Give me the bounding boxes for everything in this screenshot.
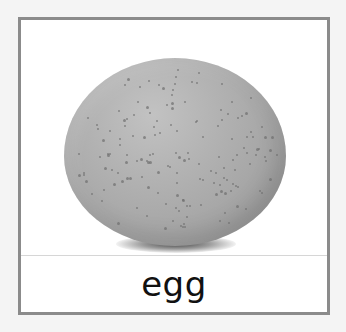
egg-speckle (169, 166, 171, 168)
egg-speckle (236, 154, 238, 156)
egg-speckle (132, 135, 134, 137)
egg-speckle (147, 186, 150, 189)
egg-speckle (269, 178, 272, 181)
egg-speckle (103, 189, 105, 191)
egg-speckle (129, 177, 132, 180)
egg-speckle (232, 159, 234, 161)
egg-speckle (261, 126, 263, 128)
egg-speckle (189, 205, 191, 207)
egg-speckle (221, 83, 223, 85)
egg-speckle (153, 126, 155, 128)
egg-speckle (178, 210, 180, 212)
egg-speckle (171, 94, 173, 96)
egg-speckle (149, 154, 151, 156)
egg-speckle (87, 117, 89, 119)
egg-speckle (96, 124, 98, 126)
egg-speckle (243, 147, 245, 149)
egg-speckle (217, 125, 219, 127)
egg-speckle (246, 152, 248, 154)
egg-speckle (218, 156, 220, 158)
egg-speckle (149, 112, 151, 114)
egg-speckle (167, 165, 169, 167)
word-label: egg (21, 256, 327, 312)
egg-speckle (246, 136, 248, 138)
egg-speckle (164, 227, 167, 230)
egg-speckle (220, 109, 222, 111)
egg-speckle (269, 149, 272, 152)
egg-speckle (210, 170, 212, 172)
egg-speckle (226, 179, 228, 181)
egg-speckle (264, 156, 266, 158)
egg-speckle (133, 114, 135, 116)
egg-speckle (159, 132, 161, 134)
egg-speckle (191, 81, 193, 83)
egg-speckle (175, 152, 177, 154)
egg-speckle (109, 153, 111, 155)
egg-speckle (245, 208, 247, 210)
egg-speckle (143, 136, 146, 139)
egg-speckle (234, 169, 236, 171)
egg-speckle (125, 161, 128, 164)
egg-speckle (175, 207, 177, 209)
egg-speckle (165, 203, 167, 205)
egg-speckle (258, 148, 260, 150)
egg-speckle (219, 220, 221, 222)
egg-speckle (78, 174, 81, 177)
egg-speckle (102, 139, 105, 142)
egg-speckle (198, 72, 200, 74)
egg-speckle (264, 136, 267, 139)
egg-speckle (117, 222, 120, 225)
egg-speckle (99, 156, 101, 158)
egg-speckle (237, 186, 239, 188)
egg-speckle (202, 136, 204, 138)
egg-speckle (176, 130, 178, 132)
egg-speckle (119, 138, 121, 140)
egg-speckle (183, 223, 185, 225)
egg-speckle (97, 128, 99, 130)
egg-speckle (261, 192, 263, 194)
egg-speckle (186, 205, 188, 207)
egg-speckle (213, 182, 215, 184)
egg-speckle (232, 183, 234, 185)
flashcard: egg (18, 17, 330, 315)
egg-speckle (255, 154, 257, 156)
egg-speckle (156, 120, 158, 122)
egg-speckle (109, 130, 111, 132)
egg-speckle (236, 205, 239, 208)
egg-speckle (249, 163, 251, 165)
egg-speckle (241, 115, 243, 117)
egg-speckle (171, 107, 174, 110)
egg-speckle (276, 154, 278, 156)
egg-speckle (176, 172, 178, 174)
egg-speckle (136, 160, 138, 162)
egg-speckle (127, 78, 130, 81)
egg-speckle (124, 125, 126, 127)
egg-speckle (157, 171, 160, 174)
egg-speckle (176, 182, 178, 184)
egg-speckle (215, 193, 218, 196)
egg-speckle (220, 190, 223, 193)
egg-speckle (158, 84, 160, 86)
egg-speckle (157, 192, 159, 194)
egg-speckle (176, 194, 179, 197)
egg-speckle (139, 86, 141, 88)
egg-speckle (174, 83, 176, 85)
egg-speckle (78, 153, 80, 155)
egg-speckle (175, 76, 177, 78)
egg-speckle (166, 104, 168, 106)
egg-speckle (172, 89, 174, 91)
egg-speckle (126, 177, 129, 180)
egg-speckle (154, 134, 156, 136)
egg-speckle (187, 152, 189, 154)
egg-speckle (237, 117, 239, 119)
egg-speckle (148, 80, 150, 82)
egg-speckle (250, 131, 252, 133)
egg-speckle (113, 183, 116, 186)
egg-speckle (101, 200, 103, 202)
egg-speckle (228, 222, 230, 224)
egg-speckle (146, 215, 148, 217)
egg-speckle (172, 220, 174, 222)
egg-speckle (184, 101, 186, 103)
egg-speckle (152, 153, 154, 155)
egg-speckle (119, 144, 121, 146)
